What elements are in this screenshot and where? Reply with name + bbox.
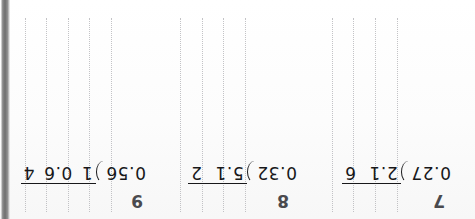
dividend-part-3: 4 xyxy=(23,163,34,183)
dividend-part-1: 1 xyxy=(81,163,92,183)
dividend-9: 10.64 xyxy=(21,162,96,184)
rotated-sheet-layer: 7 0.272.16 8 0.325.12 9 0.5610.64 xyxy=(0,0,475,219)
division-bracket-icon xyxy=(96,162,105,183)
long-division-expression-9: 0.5610.64 xyxy=(21,162,146,184)
long-division-expression-8: 0.325.12 xyxy=(188,162,297,184)
division-bracket-icon xyxy=(401,162,410,183)
divisor-8: 0.32 xyxy=(257,162,297,183)
worksheet-page: 7 0.272.16 8 0.325.12 9 0.5610.64 xyxy=(0,0,475,219)
problem-number-8: 8 xyxy=(277,191,289,211)
divisor-9: 0.56 xyxy=(106,162,146,183)
dividend-part-2: 0.6 xyxy=(43,163,72,183)
division-problem-7: 0.272.16 xyxy=(342,162,451,184)
dividend-7: 2.16 xyxy=(342,162,400,184)
dividend-part-1: 2.1 xyxy=(369,163,398,183)
long-division-expression-7: 0.272.16 xyxy=(342,162,451,184)
dividend-part-1: 5.1 xyxy=(215,163,244,183)
division-problem-8: 0.325.12 xyxy=(188,162,297,184)
dividend-8: 5.12 xyxy=(188,162,246,184)
problem-number-9: 9 xyxy=(131,191,143,211)
problem-number-7: 7 xyxy=(433,191,445,211)
division-problem-9: 0.5610.64 xyxy=(21,162,146,184)
division-bracket-icon xyxy=(247,162,256,183)
dividend-part-2: 6 xyxy=(344,163,355,183)
dividend-part-2: 2 xyxy=(190,163,201,183)
divisor-7: 0.27 xyxy=(411,162,451,183)
